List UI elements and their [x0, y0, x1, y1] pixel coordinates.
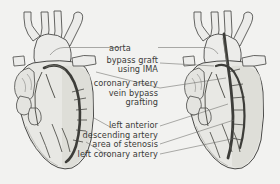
right-heart-figure	[183, 11, 266, 169]
label-bypass-graft-line2: using IMA	[58, 65, 158, 75]
label-left-coronary-artery: left coronary artery	[40, 150, 158, 160]
label-aorta: aorta	[82, 44, 158, 54]
label-coronary-artery-vein-bypass-grafting: coronary artery vein bypass grafting	[46, 79, 158, 108]
ventricle-shading-right	[232, 66, 263, 168]
label-bypass-graft-using-ima: bypass graft using IMA	[58, 56, 158, 75]
pulmonary-stub-left	[13, 56, 25, 66]
figure-container: aorta bypass graft using IMA coronary ar…	[0, 0, 280, 184]
label-cabg-line3: grafting	[46, 98, 158, 108]
vessel-stub-right-panel	[242, 55, 266, 66]
label-left-anterior-descending-artery: left anterior descending artery	[46, 121, 158, 140]
